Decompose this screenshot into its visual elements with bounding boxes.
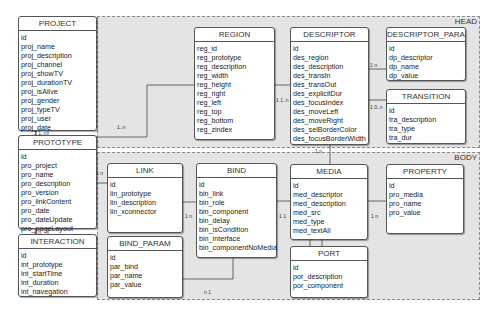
entity-field: pro_description [21, 179, 96, 188]
entity-field: pro_pageLayout [21, 224, 96, 233]
entity-field: des_focusBorderWidth [293, 134, 368, 143]
entity-field: med_textAll [293, 226, 367, 235]
cardinality-bind-media: 1 1 [279, 213, 286, 219]
entity-title: BIND [197, 164, 276, 178]
entity-field: des_explicitDur [293, 89, 368, 98]
entity-field: reg_right [197, 89, 274, 98]
entity-title: LINK [108, 164, 182, 178]
entity-interaction[interactable]: INTERACTION idint_prototypeint_startTime… [18, 234, 97, 297]
cardinality-prototype-link: 1 n [96, 170, 103, 176]
entity-field: reg_id [197, 44, 274, 53]
entity-field: por_component [293, 281, 367, 290]
entity-field: bin_link [199, 189, 276, 198]
entity-title: PROPERTY [387, 165, 463, 179]
field-list: iddes_regiondes_descriptiondes_transInde… [291, 42, 368, 143]
entity-transition[interactable]: TRANSITION idtra_descriptiontra_typetra_… [386, 89, 466, 144]
entity-link[interactable]: LINK idlin_prototypelin_descriptionlin_x… [107, 163, 183, 233]
entity-field: proj_description [21, 51, 96, 60]
entity-field: id [293, 44, 368, 53]
entity-field: pro_project [21, 161, 96, 170]
line-bind-param [183, 258, 233, 279]
entity-field: bin_role [199, 198, 276, 207]
entity-descriptor-param[interactable]: DESCRIPTOR_PARAM iddp_descriptordp_named… [386, 27, 466, 81]
entity-field: id [293, 263, 367, 272]
entity-field: id [389, 44, 465, 53]
line-prototype-region [96, 85, 194, 137]
entity-field: id [389, 106, 465, 115]
entity-project[interactable]: PROJECT idproj_nameproj_descriptionproj_… [18, 16, 97, 131]
cardinality-project-prototype: 1 1..n [34, 130, 47, 136]
entity-field: id [110, 253, 182, 262]
entity-title: PROJECT [19, 17, 96, 31]
entity-field: reg_bottom [197, 116, 274, 125]
entity-field: reg_top [197, 107, 274, 116]
entity-field: dp_descriptor [389, 53, 465, 62]
entity-title: INTERACTION [19, 235, 96, 249]
entity-field: id [199, 180, 276, 189]
entity-field: bin_componentNoMedia [199, 243, 276, 252]
field-list: idproj_nameproj_descriptionproj_channelp… [19, 31, 96, 132]
entity-field: int_duration [21, 278, 96, 287]
entity-property[interactable]: PROPERTY idpro_mediapro_namepro_value [386, 164, 464, 234]
field-list: idint_prototypeint_startTimeint_duration… [19, 249, 96, 296]
entity-field: proj_gender [21, 96, 96, 105]
entity-descriptor[interactable]: DESCRIPTOR iddes_regiondes_descriptionde… [290, 27, 369, 145]
entity-field: reg_prototype [197, 53, 274, 62]
entity-title: DESCRIPTOR_PARAM [387, 28, 465, 42]
entity-field: reg_height [197, 80, 274, 89]
field-list: idpor_descriptionpor_component [291, 261, 367, 290]
cardinality-media-property: 1 n [371, 213, 378, 219]
entity-title: REGION [195, 28, 274, 42]
entity-field: med_type [293, 217, 367, 226]
entity-field: bin_component [199, 207, 276, 216]
entity-field: reg_zindex [197, 125, 274, 134]
entity-region[interactable]: REGION reg_idreg_prototypereg_descriptio… [194, 27, 275, 140]
entity-field: proj_channel [21, 60, 96, 69]
cardinality-region-descriptor: 1 1..n [276, 97, 289, 103]
entity-field: proj_name [21, 42, 96, 51]
entity-field: pro_dateUpdate [21, 215, 96, 224]
entity-field: por_description [293, 272, 367, 281]
entity-field: des_focusIndex [293, 98, 368, 107]
entity-field: pro_date [21, 206, 96, 215]
entity-field: des_moveRight [293, 116, 368, 125]
entity-field: int_prototype [21, 260, 96, 269]
field-list: iddp_descriptordp_namedp_value [387, 42, 465, 80]
field-list: idpro_projectpro_namepro_descriptionpro_… [19, 150, 96, 233]
entity-field: med_src [293, 208, 367, 217]
entity-field: lin_prototype [110, 189, 182, 198]
entity-field: proj_user [21, 114, 96, 123]
entity-bind[interactable]: BIND idbin_linkbin_rolebin_componentbin_… [196, 163, 277, 258]
entity-field: dp_name [389, 62, 465, 71]
cardinality-descriptor-media: 1 n [315, 148, 322, 154]
cardinality-prototype-region: 1..n [117, 124, 125, 130]
entity-field: des_selBorderColor [293, 125, 368, 134]
entity-field: des_region [293, 53, 368, 62]
cardinality-prototype-interaction: 1 n [34, 229, 41, 235]
field-list: idmed_descriptormed_descriptionmed_srcme… [291, 179, 367, 235]
entity-field: pro_version [21, 188, 96, 197]
cardinality-descriptor-param: 1 n [370, 62, 377, 68]
entity-field: proj_durationTV [21, 78, 96, 87]
entity-title: MEDIA [291, 165, 367, 179]
cardinality-bind-param: n 1 [204, 289, 211, 295]
field-list: idtra_descriptiontra_typetra_dur [387, 104, 465, 142]
entity-field: tra_dur [389, 133, 465, 142]
entity-field: pro_value [389, 208, 463, 217]
entity-field: pro_linkContent [21, 197, 96, 206]
field-list: idlin_prototypelin_descriptionlin_xconne… [108, 178, 182, 216]
entity-field: tra_type [389, 124, 465, 133]
entity-media[interactable]: MEDIA idmed_descriptormed_descriptionmed… [290, 164, 368, 240]
entity-field: bin_interface [199, 234, 276, 243]
entity-prototype[interactable]: PROTOTYPE idpro_projectpro_namepro_descr… [18, 135, 97, 229]
entity-field: pro_name [389, 199, 463, 208]
entity-field: par_name [110, 271, 182, 280]
entity-port[interactable]: PORT idpor_descriptionpor_component [290, 246, 368, 298]
entity-bind-param[interactable]: BIND_PARAM idpar_bindpar_namepar_value [107, 236, 183, 298]
cardinality-descriptor-transition: 1 0..n [370, 104, 383, 110]
entity-field: bin_isCondition [199, 225, 276, 234]
field-list: idpro_mediapro_namepro_value [387, 179, 463, 217]
entity-field: bin_delay [199, 216, 276, 225]
entity-title: BIND_PARAM [108, 237, 182, 251]
entity-field: proj_showTV [21, 69, 96, 78]
